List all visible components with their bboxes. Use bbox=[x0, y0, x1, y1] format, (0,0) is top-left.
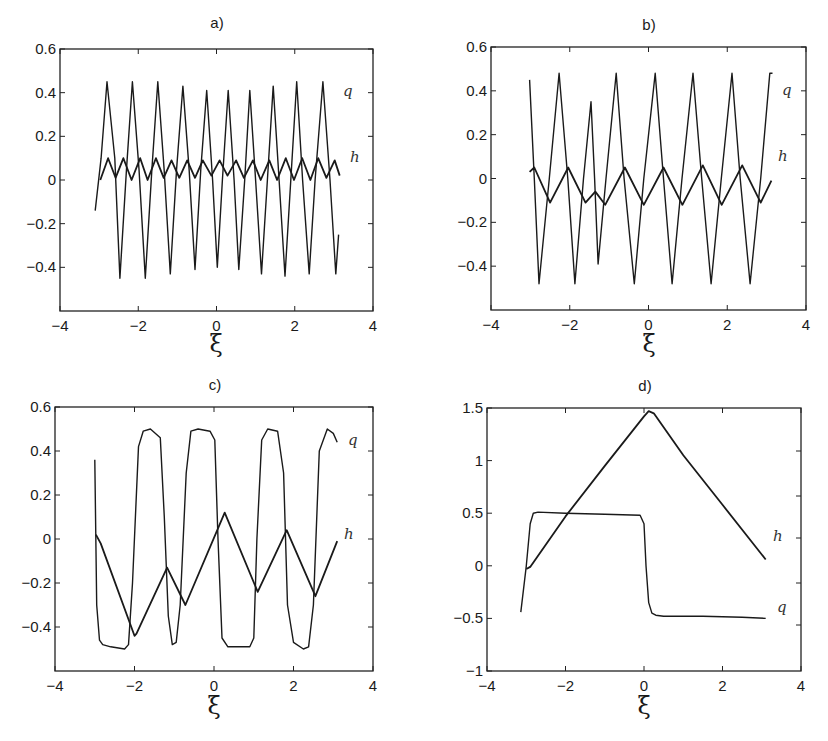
x-tick-label: 2 bbox=[708, 677, 738, 694]
panel-title-c: c) bbox=[185, 376, 245, 393]
axes-frame bbox=[487, 408, 801, 671]
series-label-q-c: q bbox=[348, 431, 358, 449]
panel-title-a: a) bbox=[187, 14, 247, 31]
series-label-h-c: h bbox=[344, 525, 354, 543]
x-axis-label-b: ξ bbox=[629, 330, 669, 358]
series-label-q-d: q bbox=[777, 598, 787, 616]
x-tick-label: 4 bbox=[786, 677, 816, 694]
series-label-q-b: q bbox=[782, 81, 792, 99]
y-tick-label: 0.5 bbox=[439, 504, 483, 521]
y-tick-label: 1.5 bbox=[439, 399, 483, 416]
x-axis-label-a: ξ bbox=[196, 330, 236, 358]
x-axis-label-c: ξ bbox=[194, 692, 234, 720]
series-label-h-b: h bbox=[778, 147, 788, 165]
x-tick-label: −2 bbox=[551, 677, 581, 694]
panel-title-b: b) bbox=[619, 16, 679, 33]
y-tick-label: −1 bbox=[439, 662, 483, 679]
y-tick-label: 0 bbox=[439, 557, 483, 574]
plot-area bbox=[0, 0, 828, 741]
series-label-h-a: h bbox=[350, 148, 360, 166]
series-label-h-d: h bbox=[773, 527, 783, 545]
y-tick-label: 1 bbox=[439, 452, 483, 469]
panel-d: −4−20241.510.50−0.5−1 bbox=[0, 0, 828, 741]
y-tick-label: −0.5 bbox=[439, 609, 483, 626]
x-axis-label-d: ξ bbox=[624, 692, 664, 720]
x-tick-label: −4 bbox=[472, 677, 502, 694]
series-label-q-a: q bbox=[343, 82, 353, 100]
series-line-h bbox=[526, 411, 765, 569]
panel-title-d: d) bbox=[615, 377, 675, 394]
